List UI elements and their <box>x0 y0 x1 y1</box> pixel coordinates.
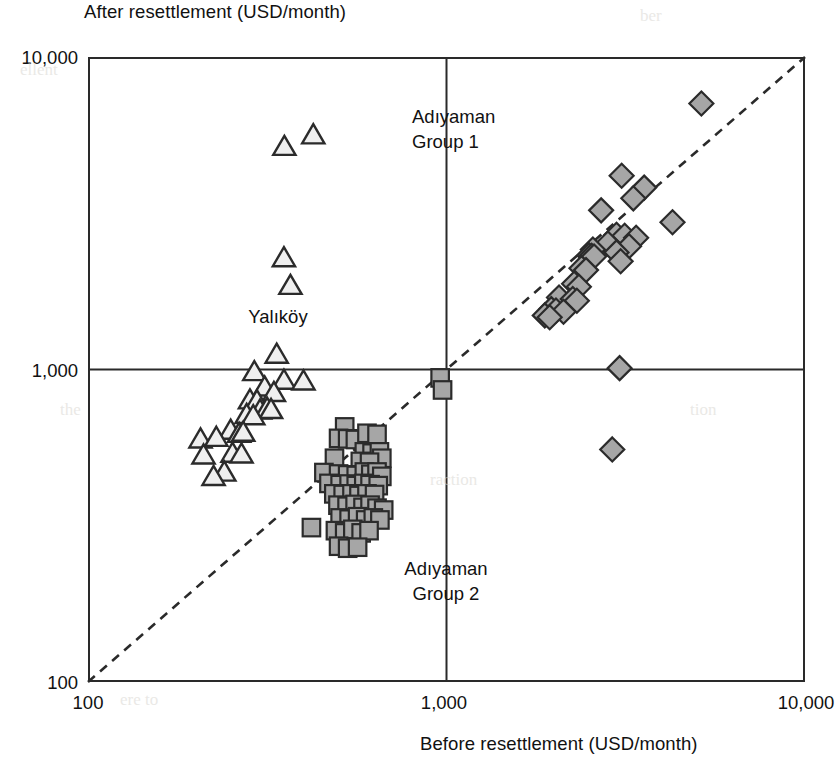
data-point-square <box>303 519 321 537</box>
y-axis-title: After resettlement (USD/month) <box>84 1 346 23</box>
x-axis-tick-1000: 1,000 <box>404 692 484 714</box>
data-point-square <box>360 522 378 540</box>
x-axis-title: Before resettlement (USD/month) <box>420 733 698 755</box>
x-axis-tick-10000: 10,000 <box>760 692 839 714</box>
background-showthrough-text: the <box>60 400 81 420</box>
annotation-adiyaman-group-2: Adıyaman Group 2 <box>356 557 536 607</box>
data-point-diamond <box>608 356 632 380</box>
data-point-triangle <box>302 124 324 143</box>
series-2-markers <box>303 369 452 557</box>
y-axis-tick-100: 100 <box>0 672 78 694</box>
background-showthrough-text: ber <box>640 6 662 26</box>
annotation-yalikoy: Yalıköy <box>203 305 353 330</box>
data-point-diamond <box>600 437 624 461</box>
data-point-diamond <box>610 164 634 188</box>
data-point-triangle <box>266 344 288 363</box>
data-point-triangle <box>292 370 314 389</box>
y-axis-tick-10000: 10,000 <box>0 47 78 69</box>
data-point-diamond <box>589 198 613 222</box>
data-point-square <box>349 538 367 556</box>
y-axis-tick-1000: 1,000 <box>0 360 78 382</box>
annotation-adiyaman-group-1: Adıyaman Group 1 <box>412 105 495 155</box>
x-axis-tick-100: 100 <box>48 692 128 714</box>
data-point-square <box>368 426 386 444</box>
data-point-triangle <box>273 136 295 155</box>
plot-area: Adıyaman Group 1 Adıyaman Group 2 Yalıkö… <box>88 57 805 682</box>
data-point-square <box>434 381 452 399</box>
series-3-markers <box>533 91 714 461</box>
data-point-diamond <box>661 210 685 234</box>
data-point-triangle <box>279 275 301 294</box>
data-point-diamond <box>689 91 713 115</box>
data-point-triangle <box>243 361 265 380</box>
data-point-triangle <box>273 247 295 266</box>
